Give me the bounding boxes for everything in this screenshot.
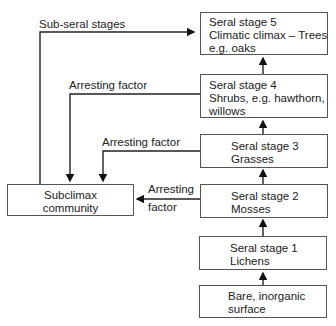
stage1-desc: Lichens <box>230 255 326 268</box>
subclimax-line-1: Subclimax <box>8 189 133 202</box>
arresting-factor-label-4: Arresting factor <box>69 79 147 91</box>
bare-line-1: Bare, inorganic <box>228 290 326 303</box>
stage5-example: e.g. oaks <box>209 42 327 55</box>
stage2-title: Seral stage 2 <box>231 190 327 203</box>
stage1-title: Seral stage 1 <box>230 242 326 255</box>
subclimax-line-2: community <box>8 202 133 215</box>
box-seral-stage-1: Seral stage 1 Lichens <box>199 236 327 270</box>
sub-seral-stages-label: Sub-seral stages <box>39 18 125 30</box>
stage3-desc: Grasses <box>231 153 327 166</box>
box-subclimax-community: Subclimax community <box>7 184 134 216</box>
box-seral-stage-5: Seral stage 5 Climatic climax – Trees e.… <box>200 12 328 55</box>
box-bare-surface: Bare, inorganic surface <box>199 285 327 318</box>
stage5-desc: Climatic climax – Trees <box>209 29 327 42</box>
bare-line-2: surface <box>228 303 326 316</box>
arresting-factor-label-3: Arresting factor <box>102 136 180 148</box>
stage4-desc: Shrubs, e.g. hawthorn, <box>209 92 327 105</box>
box-seral-stage-3: Seral stage 3 Grasses <box>200 134 328 168</box>
box-seral-stage-2: Seral stage 2 Mosses <box>200 184 328 218</box>
arresting-label-2b: factor <box>148 201 177 213</box>
succession-diagram: Sub-seral stages Arresting factor Arrest… <box>0 0 336 326</box>
stage3-title: Seral stage 3 <box>231 140 327 153</box>
stage4-example: willows <box>209 105 327 118</box>
stage5-title: Seral stage 5 <box>209 16 327 29</box>
box-seral-stage-4: Seral stage 4 Shrubs, e.g. hawthorn, wil… <box>200 74 328 118</box>
stage4-title: Seral stage 4 <box>209 79 327 92</box>
stage2-desc: Mosses <box>231 203 327 216</box>
arresting-label-2a: Arresting <box>148 183 194 195</box>
